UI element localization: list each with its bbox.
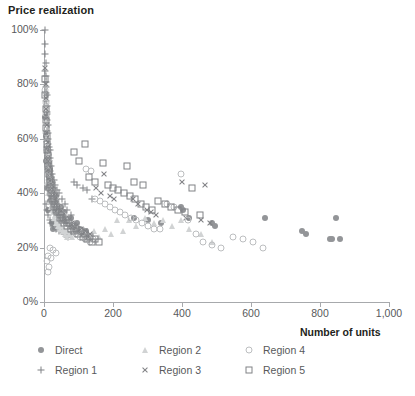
x-tick-label: 1,000 xyxy=(376,307,402,319)
data-point xyxy=(75,228,82,235)
data-point xyxy=(64,220,71,227)
data-point xyxy=(51,215,57,221)
legend-item-region-4[interactable]: Region 4 xyxy=(244,344,305,356)
data-point xyxy=(55,228,62,235)
legend-item-region-2[interactable]: Region 2 xyxy=(140,344,201,356)
y-tick-label: 60% xyxy=(17,132,38,144)
data-point xyxy=(134,201,141,208)
data-point xyxy=(64,206,71,213)
data-point xyxy=(189,184,196,191)
data-point xyxy=(58,204,64,210)
legend-item-region-5[interactable]: Region 5 xyxy=(244,364,305,376)
data-point xyxy=(50,226,56,232)
x-tick-label: 600 xyxy=(242,307,260,319)
data-point xyxy=(240,236,247,243)
data-point xyxy=(45,138,52,145)
data-point xyxy=(74,220,80,226)
data-point xyxy=(75,228,82,235)
data-point xyxy=(126,217,132,223)
data-point xyxy=(108,231,114,237)
legend-label: Region 4 xyxy=(263,344,305,356)
data-point xyxy=(186,215,192,221)
data-point xyxy=(212,223,218,229)
data-point xyxy=(46,176,53,183)
legend-item-direct[interactable]: Direct xyxy=(36,344,82,356)
data-point xyxy=(52,182,59,189)
data-point xyxy=(46,174,52,180)
data-point xyxy=(192,231,199,238)
x-axis-tick-labels: 02004006008001,000 xyxy=(44,307,389,323)
data-point xyxy=(45,171,52,178)
plot-area xyxy=(44,30,389,302)
data-point xyxy=(42,86,49,93)
data-point xyxy=(49,201,55,207)
data-point xyxy=(49,182,56,189)
data-point xyxy=(47,182,54,189)
filled-circle-icon xyxy=(36,345,46,355)
data-point xyxy=(46,171,53,178)
data-point xyxy=(181,209,188,216)
data-point xyxy=(337,236,343,242)
data-point xyxy=(102,226,108,232)
data-point xyxy=(46,160,53,167)
data-point xyxy=(167,203,174,210)
data-point xyxy=(60,228,66,234)
data-point xyxy=(42,65,49,72)
data-point xyxy=(139,182,146,189)
data-point xyxy=(74,182,81,189)
legend-label: Region 3 xyxy=(159,364,201,376)
scatter-chart: Price realization 0%20%40%60%80%100% 020… xyxy=(0,0,415,396)
data-point xyxy=(69,234,75,240)
data-point xyxy=(48,184,55,191)
y-tick-mark xyxy=(40,248,44,249)
data-point xyxy=(81,236,88,243)
data-point xyxy=(46,217,53,224)
data-point xyxy=(64,222,71,229)
data-point xyxy=(77,228,83,234)
data-point xyxy=(92,236,99,243)
data-point xyxy=(91,228,97,234)
data-point xyxy=(327,236,333,242)
data-point xyxy=(123,163,130,170)
y-tick-mark xyxy=(40,139,44,140)
data-point xyxy=(55,223,61,229)
data-point xyxy=(66,231,72,237)
data-point xyxy=(202,182,209,189)
data-point xyxy=(46,160,53,167)
x-axis-line xyxy=(44,302,389,303)
data-point xyxy=(148,206,155,213)
legend-marker xyxy=(142,367,149,374)
data-point xyxy=(209,239,215,245)
data-point xyxy=(55,203,62,210)
data-point xyxy=(58,214,65,221)
legend-item-region-1[interactable]: Region 1 xyxy=(36,364,97,376)
data-point xyxy=(63,217,70,224)
data-point xyxy=(45,141,52,148)
data-point xyxy=(51,195,58,202)
data-point xyxy=(48,195,55,202)
legend-item-region-3[interactable]: Region 3 xyxy=(140,364,201,376)
data-point xyxy=(45,190,51,196)
data-point xyxy=(52,192,59,199)
data-point xyxy=(183,214,190,221)
data-point xyxy=(120,190,127,197)
data-point xyxy=(47,198,53,204)
data-point xyxy=(51,198,58,205)
data-point xyxy=(44,135,51,142)
cross-icon xyxy=(140,365,150,375)
data-point xyxy=(44,152,51,159)
data-point xyxy=(52,212,58,218)
triangle-icon xyxy=(140,345,150,355)
data-point xyxy=(44,122,51,129)
data-point xyxy=(66,231,72,237)
data-point xyxy=(73,226,79,232)
open-circle-icon xyxy=(244,345,254,355)
data-point xyxy=(59,214,66,221)
data-point xyxy=(56,223,62,229)
data-point xyxy=(53,198,60,205)
data-point xyxy=(161,201,168,208)
data-point xyxy=(65,233,72,240)
data-point xyxy=(114,217,120,223)
data-point xyxy=(49,184,56,191)
data-point xyxy=(154,198,161,205)
